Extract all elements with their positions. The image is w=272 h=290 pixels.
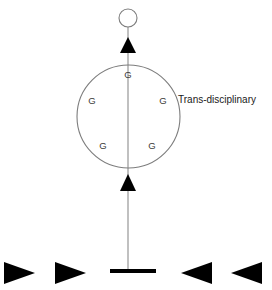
left-inner-arrow [55,262,86,284]
middle-arrowhead [120,174,136,191]
node-label-g-mid-left: G [88,95,95,106]
right-inner-arrow [181,262,212,284]
foundation-bar [110,269,156,273]
trans-disciplinary-label: Trans-disciplinary [178,94,256,105]
node-label-g-lower-left: G [99,140,106,151]
right-outer-arrow [231,262,262,284]
outcome-circle [119,9,137,27]
left-outer-arrow [4,262,35,284]
node-label-g-lower-right: G [148,140,155,151]
upper-arrowhead [120,37,136,53]
node-label-g-mid-right: G [159,95,166,106]
trans-disciplinary-diagram: G G G G G Trans-disciplinary [0,0,272,290]
diagram-canvas: G G G G G Trans-disciplinary [0,0,272,290]
node-label-g-top: G [124,69,131,80]
